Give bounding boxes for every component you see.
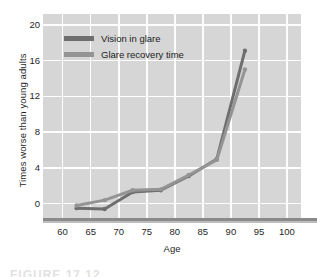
series-line-0: [77, 51, 245, 209]
y-tick-label: 0: [0, 198, 40, 209]
x-tick-label: 95: [244, 226, 274, 237]
x-tick-label: 75: [132, 226, 162, 237]
x-tick-label: 90: [216, 226, 246, 237]
data-point: [243, 48, 247, 52]
x-axis-tick-labels: 6065707580859095100: [43, 226, 301, 242]
figure-container: Times worse than young adults 048121620 …: [0, 0, 317, 277]
x-tick-label: 100: [272, 226, 302, 237]
y-tick-label: 8: [0, 126, 40, 137]
y-tick-label: 4: [0, 162, 40, 173]
y-tick-label: 16: [0, 55, 40, 66]
x-tick-label: 65: [76, 226, 106, 237]
data-point: [159, 187, 163, 191]
x-axis-title: Age: [43, 243, 301, 254]
y-tick-label: 12: [0, 90, 40, 101]
data-point: [243, 67, 247, 71]
chart-legend: Vision in glare Glare recovery time: [64, 33, 184, 60]
data-point: [74, 203, 78, 207]
data-point: [215, 158, 219, 162]
legend-swatch-vision-in-glare: [64, 36, 94, 40]
legend-label-vision-in-glare: Vision in glare: [101, 33, 161, 44]
data-point: [131, 188, 135, 192]
y-axis-tick-labels: 048121620: [0, 14, 40, 218]
y-tick-label: 20: [0, 19, 40, 30]
x-tick-label: 85: [188, 226, 218, 237]
legend-swatch-glare-recovery-time: [64, 52, 94, 56]
x-tick-label: 60: [48, 226, 78, 237]
baseline-rule-shadow: [43, 221, 317, 222]
x-tick-label: 80: [160, 226, 190, 237]
data-point: [187, 173, 191, 177]
figure-caption: FIGURE 17.12: [10, 268, 101, 277]
legend-item-vision-in-glare: Vision in glare: [64, 33, 184, 44]
data-point: [103, 207, 107, 211]
data-point: [103, 198, 107, 202]
series-line-1: [77, 69, 245, 205]
legend-item-glare-recovery-time: Glare recovery time: [64, 49, 184, 60]
x-tick-label: 70: [104, 226, 134, 237]
legend-label-glare-recovery-time: Glare recovery time: [101, 49, 184, 60]
